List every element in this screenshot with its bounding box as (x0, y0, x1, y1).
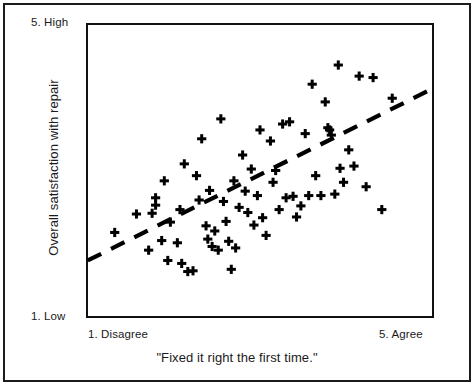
scatter-point (255, 125, 264, 134)
scatter-point (369, 73, 378, 82)
scatter-point (148, 209, 157, 218)
scatter-point (339, 178, 348, 187)
scatter-point (163, 256, 172, 265)
scatter-points-group (110, 60, 397, 276)
scatter-point (344, 145, 353, 154)
scatter-point (388, 94, 397, 103)
scatter-point (266, 136, 275, 145)
scatter-point (261, 231, 270, 240)
scatter-point (253, 191, 262, 200)
scatter-point (205, 186, 214, 195)
scatter-point (144, 246, 153, 255)
scatter-point (177, 259, 186, 268)
scatter-point (157, 236, 166, 245)
scatter-point (238, 150, 247, 159)
scatter-point (221, 217, 230, 226)
scatter-point (335, 164, 344, 173)
y-axis-title: Overall satisfaction with repair (46, 68, 61, 268)
scatter-point (362, 182, 371, 191)
scatter-point (224, 237, 233, 246)
scatter-point (210, 226, 219, 235)
scatter-point (311, 171, 320, 180)
y-axis-bottom-label: 1. Low (31, 310, 65, 322)
y-axis-top-label: 5. High (31, 16, 68, 28)
scatter-point (227, 265, 236, 274)
scatter-point (296, 201, 305, 210)
scatter-point (249, 220, 258, 229)
scatter-point (231, 243, 240, 252)
scatter-point (180, 159, 189, 168)
scatter-point (197, 134, 206, 143)
plot-canvas (86, 23, 434, 318)
scatter-point (275, 205, 284, 214)
scatter-point (349, 161, 358, 170)
trendline (88, 88, 434, 261)
scatter-point (301, 129, 310, 138)
scatter-point (377, 205, 386, 214)
scatter-point (160, 176, 169, 185)
scatter-point (132, 209, 141, 218)
scatter-point (330, 190, 339, 199)
scatter-point (243, 208, 252, 217)
scatter-point (195, 195, 204, 204)
scatter-point (110, 228, 119, 237)
scatter-point (292, 212, 301, 221)
scatter-point (188, 266, 197, 275)
scatter-point (216, 114, 225, 123)
scatter-point (201, 221, 210, 230)
scatter-point (219, 197, 228, 206)
scatter-point (235, 203, 244, 212)
scatter-point (173, 238, 182, 247)
scatter-point (321, 97, 330, 106)
scatter-point (258, 213, 267, 222)
scatter-point (308, 80, 317, 89)
x-axis-title: "Fixed it right the first time." (0, 350, 474, 365)
scatter-point (316, 191, 325, 200)
scatter-point (151, 201, 160, 210)
scatter-point (247, 164, 256, 173)
x-axis-right-label: 5. Agree (379, 328, 423, 340)
scatter-point (241, 187, 250, 196)
x-axis-left-label: 1. Disagree (88, 328, 148, 340)
scatter-point (192, 171, 201, 180)
scatter-point (334, 60, 343, 69)
scatter-point (288, 192, 297, 201)
scatter-plot-figure: 5. High 1. Low 1. Disagree 5. Agree "Fix… (0, 0, 474, 385)
scatter-point (304, 191, 313, 200)
scatter-point (355, 72, 364, 81)
scatter-point (268, 178, 277, 187)
